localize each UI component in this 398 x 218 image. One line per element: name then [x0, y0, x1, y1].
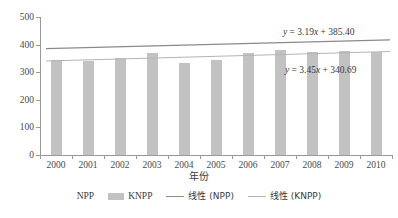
x-tick-2010 [392, 155, 393, 159]
x-tick-label-2010: 2010 [359, 161, 393, 171]
x-tick-2008 [328, 155, 329, 159]
equation-npp-rhs: + 385.40 [318, 27, 354, 37]
x-axis-title: 年份 [0, 172, 398, 182]
x-tick-2007 [296, 155, 297, 159]
legend-swatch-line-light [248, 196, 266, 197]
trend-line-npp [46, 40, 390, 49]
x-tick-2004 [200, 155, 201, 159]
chart-container: 500 400 300 200 100 0 200020012002200320… [0, 0, 398, 218]
x-tick-2002 [136, 155, 137, 159]
x-tick-label-2008: 2008 [295, 161, 329, 171]
bar-2003 [147, 53, 158, 155]
y-tick-label-300: 300 [6, 68, 34, 78]
x-tick-label-2007: 2007 [263, 161, 297, 171]
y-tick-label-100: 100 [6, 123, 34, 133]
x-tick-2005 [232, 155, 233, 159]
y-tick-500 [36, 17, 40, 18]
bar-2007 [275, 50, 286, 155]
x-tick-label-2006: 2006 [231, 161, 265, 171]
legend-item-3[interactable]: 线性 (KNPP) [248, 192, 321, 201]
legend-label-2: 线性 (NPP) [188, 192, 233, 201]
equation-knpp-eq: = 3.45 [289, 65, 316, 75]
x-tick-2009 [360, 155, 361, 159]
x-tick-label-2003: 2003 [135, 161, 169, 171]
legend-item-2[interactable]: 线性 (NPP) [166, 192, 233, 201]
equation-npp-eq: = 3.19 [287, 27, 314, 37]
x-tick-label-2002: 2002 [103, 161, 137, 171]
y-tick-label-500: 500 [6, 13, 34, 23]
chart-legend: NPPKNPP线性 (NPP)线性 (KNPP) [0, 192, 398, 202]
y-tick-400 [36, 45, 40, 46]
y-tick-label-400: 400 [6, 41, 34, 51]
x-tick-2001 [104, 155, 105, 159]
legend-item-0[interactable]: NPP [77, 192, 94, 202]
y-tick-100 [36, 127, 40, 128]
y-axis-line [40, 17, 41, 156]
bar-2001 [83, 61, 94, 155]
legend-swatch-bar [108, 193, 124, 200]
x-tick-label-2005: 2005 [199, 161, 233, 171]
bar-2010 [371, 52, 382, 155]
bar-2002 [115, 58, 126, 155]
bar-2006 [243, 53, 254, 155]
equation-knpp-rhs: + 340.69 [320, 65, 356, 75]
x-tick-origin [40, 155, 41, 159]
bar-2004 [179, 63, 190, 155]
legend-label-3: 线性 (KNPP) [270, 192, 321, 201]
y-tick-300 [36, 72, 40, 73]
equation-label-npp: y = 3.19x + 385.40 [283, 28, 354, 38]
x-tick-2006 [264, 155, 265, 159]
y-tick-200 [36, 100, 40, 101]
y-tick-label-200: 200 [6, 96, 34, 106]
x-axis-line [40, 155, 392, 156]
bar-2000 [51, 60, 62, 155]
legend-item-1[interactable]: KNPP [108, 192, 152, 202]
x-tick-2003 [168, 155, 169, 159]
legend-swatch-line-dark [166, 196, 184, 197]
x-tick-label-2004: 2004 [167, 161, 201, 171]
legend-label-0: NPP [77, 192, 94, 202]
x-tick-label-2009: 2009 [327, 161, 361, 171]
legend-label-1: KNPP [128, 192, 152, 202]
x-tick-label-2001: 2001 [71, 161, 105, 171]
equation-label-knpp: y = 3.45x + 340.69 [285, 66, 356, 76]
x-tick-label-2000: 2000 [39, 161, 73, 171]
y-tick-label-0: 0 [6, 151, 34, 161]
bar-2005 [211, 60, 222, 155]
x-tick-2000 [72, 155, 73, 159]
